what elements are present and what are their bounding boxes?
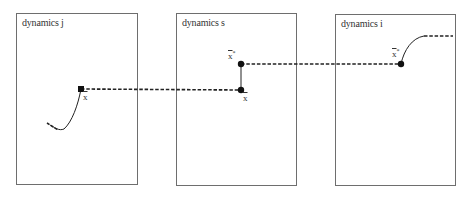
label-s-lower-text: x xyxy=(243,93,248,103)
label-i-point: x* xyxy=(392,48,400,59)
point-i xyxy=(398,61,404,67)
point-s-upper xyxy=(238,61,244,67)
label-j-point: x xyxy=(83,93,88,102)
label-s-upper: x* xyxy=(228,50,236,61)
dashed-connector-j-s xyxy=(81,89,241,90)
label-i-point-star: * xyxy=(397,48,400,54)
trajectory-dash-j xyxy=(47,123,58,130)
trajectory-curve-i xyxy=(401,36,424,64)
diagram-overlay xyxy=(0,0,469,197)
trajectory-curve-j xyxy=(50,89,81,130)
label-j-point-text: x xyxy=(83,92,88,102)
label-s-lower: x xyxy=(243,94,248,103)
label-s-upper-star: * xyxy=(233,50,236,56)
